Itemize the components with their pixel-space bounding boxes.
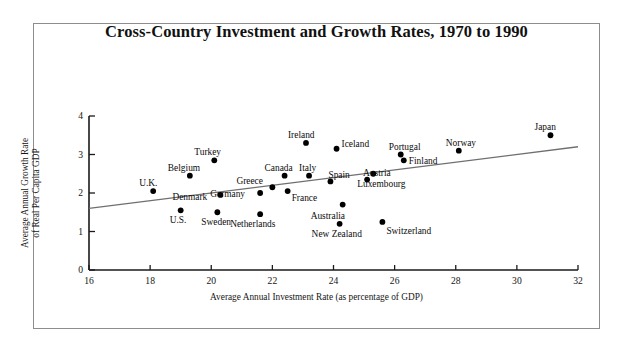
data-point-label: Norway	[446, 138, 476, 148]
data-point-label: Switzerland	[386, 226, 431, 236]
data-point[interactable]	[285, 188, 291, 194]
x-tick-label: 20	[191, 275, 231, 286]
data-point[interactable]	[398, 152, 404, 158]
data-point-label: Luxembourg	[357, 179, 405, 189]
y-axis-title-wrapper: Average Annual Growth Rateof Real Per Ca…	[17, 108, 45, 278]
data-point[interactable]	[340, 202, 346, 208]
data-point-label: Japan	[534, 122, 555, 132]
data-point-label: Spain	[328, 170, 349, 180]
data-point-label: U.K.	[139, 178, 157, 188]
plot-svg	[0, 0, 633, 360]
data-point[interactable]	[303, 140, 309, 146]
data-point-label: Ireland	[288, 130, 315, 140]
scatter-plot: Average Annual Growth Rateof Real Per Ca…	[0, 0, 633, 360]
data-point[interactable]	[150, 188, 156, 194]
data-point-label: New Zealand	[312, 229, 362, 239]
data-point[interactable]	[337, 221, 343, 227]
y-axis-title-line-2: of Real Per Capita GDP	[31, 108, 43, 278]
data-point[interactable]	[380, 219, 386, 225]
x-axis-title: Average Annual Investment Rate (as perce…	[0, 292, 633, 302]
data-point[interactable]	[257, 211, 263, 217]
data-point[interactable]	[282, 173, 288, 179]
data-point-label: Canada	[265, 163, 293, 173]
y-tick-label: 3	[59, 149, 83, 160]
data-point[interactable]	[306, 173, 312, 179]
x-tick-label: 28	[436, 275, 476, 286]
data-point-label: Germany	[210, 189, 245, 199]
data-point[interactable]	[401, 157, 407, 163]
y-axis-title: Average Annual Growth Rateof Real Per Ca…	[20, 108, 43, 278]
data-point[interactable]	[214, 209, 220, 215]
data-point[interactable]	[257, 190, 263, 196]
data-point-label: Netherlands	[230, 219, 275, 229]
data-point-label: Belgium	[168, 163, 200, 173]
y-axis-title-line-1: Average Annual Growth Rate	[20, 108, 32, 278]
data-point-label: Sweden	[201, 217, 231, 227]
data-point-label: Denmark	[172, 192, 207, 202]
x-tick-label: 22	[252, 275, 292, 286]
x-tick-label: 16	[69, 275, 109, 286]
data-point-label: Greece	[236, 176, 263, 186]
x-tick-label: 26	[375, 275, 415, 286]
x-tick-label: 24	[314, 275, 354, 286]
data-point-label: Austria	[363, 168, 391, 178]
x-tick-label: 32	[558, 275, 598, 286]
y-tick-label: 0	[59, 264, 83, 275]
data-point-label: France	[292, 193, 318, 203]
data-point[interactable]	[187, 173, 193, 179]
data-point-label: U.S.	[170, 215, 187, 225]
data-point-label: Italy	[299, 163, 316, 173]
data-point[interactable]	[211, 157, 217, 163]
data-point-label: Australia	[311, 211, 345, 221]
data-point-label: Turkey	[194, 147, 221, 157]
data-point-label: Finland	[409, 156, 438, 166]
data-point[interactable]	[178, 207, 184, 213]
x-tick-label: 18	[130, 275, 170, 286]
data-point[interactable]	[456, 148, 462, 154]
data-point-label: Portugal	[389, 142, 421, 152]
data-point[interactable]	[269, 184, 275, 190]
y-tick-label: 4	[59, 110, 83, 121]
x-tick-label: 30	[497, 275, 537, 286]
data-point[interactable]	[334, 146, 340, 152]
data-point-label: Iceland	[342, 139, 370, 149]
y-tick-label: 1	[59, 226, 83, 237]
data-point[interactable]	[548, 132, 554, 138]
y-tick-label: 2	[59, 187, 83, 198]
